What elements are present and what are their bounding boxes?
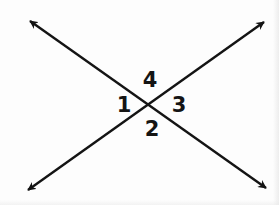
angle-label-1: 1: [117, 95, 132, 116]
angle-label-2: 2: [145, 119, 160, 140]
angle-label-3: 3: [172, 95, 187, 116]
diagram-canvas: [0, 0, 279, 205]
angle-diagram-figure: 4 1 3 2: [0, 0, 279, 205]
line-lower-left-to-upper-right: [28, 22, 264, 190]
lines-group: [28, 21, 266, 190]
angle-label-4: 4: [143, 70, 158, 91]
